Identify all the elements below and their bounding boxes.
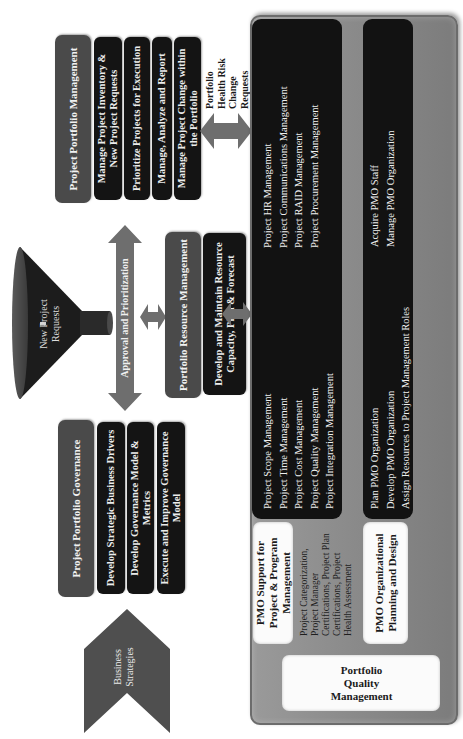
funnel-label: New Project Requests — [38, 289, 62, 359]
portfolio-mgmt-item: Manage Project Change within the Portfol… — [174, 37, 201, 200]
pmo-support-description: Project Categorization, Project Manager … — [295, 522, 343, 644]
portfolio-mgmt-item: Manage, Analyze and Report — [152, 37, 172, 200]
governance-item: Execute and Improve Governance Model — [157, 422, 185, 594]
governance-item: Develop Governance Model & Metrics — [127, 422, 154, 594]
portfolio-mgmt-item: Prioritize Projects for Execution — [124, 37, 150, 200]
pmo-framework-diagram: Business Strategies Project Portfolio Go… — [0, 0, 463, 739]
resource-header: Portfolio Resource Management — [165, 232, 201, 398]
business-strategies-label: Business Strategies — [112, 639, 136, 695]
approval-label: Approval and Prioritization — [119, 243, 131, 393]
org-planning-box: Plan PMO Organization Develop PMO Organi… — [363, 19, 413, 519]
approval-resource-arrow — [140, 304, 166, 330]
governance-item: Develop Strategic Business Drivers — [97, 422, 125, 594]
governance-header: Project Portfolio Governance — [58, 420, 94, 597]
feedback-label: Portfolio Health Risk Change Requests — [204, 29, 250, 109]
knowledge-areas-left: Project Scope Management Project Time Ma… — [260, 310, 334, 509]
resource-panel-arrow — [222, 302, 252, 326]
pmo-org-planning-box: PMO Organizational Planning and Design — [363, 522, 408, 644]
org-planning-right: Acquire PMO Staff Manage PMO Organizatio… — [367, 47, 405, 249]
quality-mgmt-box: Portfolio Quality Management — [282, 655, 440, 711]
knowledge-areas-right: Project HR Management Project Communicat… — [260, 29, 334, 280]
portfolio-mgmt-header: Project Portfolio Management — [55, 35, 91, 203]
portfolio-mgmt-item: Manage Project Inventory & New Project R… — [94, 37, 122, 200]
funnel-icon — [12, 243, 112, 403]
feedback-double-arrow — [200, 113, 252, 149]
knowledge-areas-box: Project Scope Management Project Time Ma… — [252, 19, 342, 519]
org-planning-left: Plan PMO Organization Develop PMO Organi… — [367, 279, 405, 509]
pmo-support-box: PMO Support for Project & Program Manage… — [253, 522, 293, 644]
